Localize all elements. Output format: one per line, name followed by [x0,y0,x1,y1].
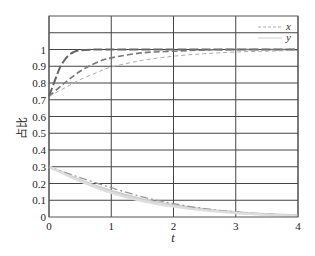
y-tick-label: 0.8 [32,77,46,89]
y-tick-label: 0.4 [32,144,46,156]
x-tick-label: 0 [46,220,52,232]
y-axis-label: 占比 [15,117,29,139]
y-tick-label: 1 [41,44,47,56]
x-tick-label: 3 [233,220,239,232]
grid-lines [49,16,298,217]
y-tick-labels: 00.10.20.30.40.50.60.70.80.91 [32,44,46,224]
y-tick-label: 0.3 [32,161,46,173]
y-tick-label: 0.9 [32,60,46,72]
y-tick-label: 0.5 [32,127,46,139]
y-tick-label: 0.2 [32,178,46,190]
x-axis-label: t [171,231,175,245]
x-tick-label: 1 [109,220,115,232]
y-tick-label: 0.1 [32,194,46,206]
y-tick-label: 0.7 [32,94,46,106]
legend: x y [258,20,291,43]
y-tick-label: 0.6 [32,111,46,123]
line-chart: 00.10.20.30.40.50.60.70.80.91 01234 t 占比… [0,0,315,256]
x-tick-label: 4 [295,220,301,232]
legend-label-y: y [285,31,291,43]
